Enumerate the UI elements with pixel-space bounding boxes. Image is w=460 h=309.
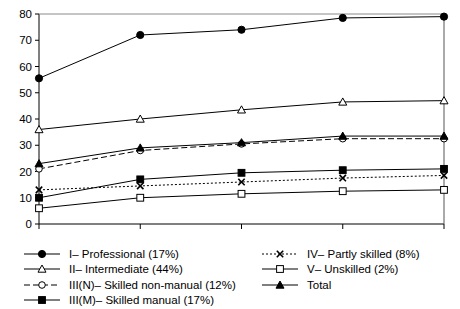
- legend-label: I– Professional (17%): [69, 248, 179, 260]
- marker-professional: [35, 75, 42, 82]
- marker-skilled-non-manual: [39, 281, 46, 288]
- legend-label: III(N)– Skilled non-manual (12%): [69, 279, 236, 291]
- legend-swatch-icon: [22, 293, 62, 307]
- series-total: [35, 132, 448, 167]
- legend-key-skilled-manual: [22, 293, 62, 307]
- marker-unskilled: [238, 190, 245, 197]
- marker-unskilled: [339, 188, 346, 195]
- legend-label: III(M)– Skilled manual (17%): [69, 294, 214, 306]
- plot-area: 010203040506070801991–21992–31993–41994–…: [0, 0, 460, 232]
- chart-figure: 010203040506070801991–21992–31993–41994–…: [0, 0, 460, 309]
- marker-professional: [440, 13, 447, 20]
- series-intermediate: [35, 97, 448, 133]
- legend-swatch-icon: [260, 262, 300, 276]
- y-tick-label: 80: [19, 8, 32, 20]
- legend-item-unskilled[interactable]: V– Unskilled (2%): [260, 262, 460, 278]
- marker-skilled-manual: [137, 176, 144, 183]
- legend-key-professional: [22, 247, 62, 261]
- legend-swatch-icon: [22, 262, 62, 276]
- y-tick-label: 50: [19, 87, 32, 99]
- chart-legend: I– Professional (17%)II– Intermediate (4…: [0, 246, 460, 309]
- line-chart-svg: 010203040506070801991–21992–31993–41994–…: [0, 0, 460, 232]
- legend-item-skilled-non-manual[interactable]: III(N)– Skilled non-manual (12%): [22, 277, 260, 293]
- legend-swatch-icon: [22, 247, 62, 261]
- y-tick-label: 70: [19, 34, 32, 46]
- marker-partly-skilled: [137, 183, 143, 189]
- legend-label: V– Unskilled (2%): [307, 263, 398, 275]
- marker-skilled-manual: [36, 194, 43, 201]
- marker-skilled-manual: [441, 165, 448, 172]
- legend-item-intermediate[interactable]: II– Intermediate (44%): [22, 262, 260, 278]
- y-tick-label: 60: [19, 61, 32, 73]
- marker-unskilled: [277, 266, 284, 273]
- legend-swatch-icon: [260, 247, 300, 261]
- legend-key-partly-skilled: [260, 247, 300, 261]
- legend-column-right: IV– Partly skilled (8%)V– Unskilled (2%)…: [260, 246, 460, 309]
- legend-swatch-icon: [22, 278, 62, 292]
- legend-item-professional[interactable]: I– Professional (17%): [22, 246, 260, 262]
- legend-key-total: [260, 278, 300, 292]
- marker-professional: [238, 26, 245, 33]
- marker-professional: [339, 14, 346, 21]
- marker-professional: [137, 31, 144, 38]
- y-tick-label: 30: [19, 139, 32, 151]
- series-unskilled: [36, 186, 448, 211]
- legend-label: IV– Partly skilled (8%): [307, 248, 419, 260]
- legend-label: II– Intermediate (44%): [69, 263, 183, 275]
- y-tick-label: 20: [19, 166, 32, 178]
- marker-unskilled: [441, 186, 448, 193]
- legend-label: Total: [307, 279, 331, 291]
- y-tick-label: 0: [26, 218, 32, 230]
- series-professional: [35, 13, 447, 82]
- marker-professional: [38, 250, 45, 257]
- legend-item-partly-skilled[interactable]: IV– Partly skilled (8%): [260, 246, 460, 262]
- legend-item-skilled-manual[interactable]: III(M)– Skilled manual (17%): [22, 293, 260, 309]
- legend-key-unskilled: [260, 262, 300, 276]
- marker-skilled-manual: [238, 169, 245, 176]
- marker-unskilled: [36, 205, 43, 212]
- marker-skilled-manual: [39, 297, 46, 304]
- marker-unskilled: [137, 194, 144, 201]
- y-tick-label: 10: [19, 192, 32, 204]
- legend-column-left: I– Professional (17%)II– Intermediate (4…: [22, 246, 260, 309]
- legend-key-skilled-non-manual: [22, 278, 62, 292]
- y-tick-label: 40: [19, 113, 32, 125]
- legend-key-intermediate: [22, 262, 62, 276]
- marker-skilled-manual: [339, 167, 346, 174]
- legend-item-total[interactable]: Total: [260, 277, 460, 293]
- legend-swatch-icon: [260, 278, 300, 292]
